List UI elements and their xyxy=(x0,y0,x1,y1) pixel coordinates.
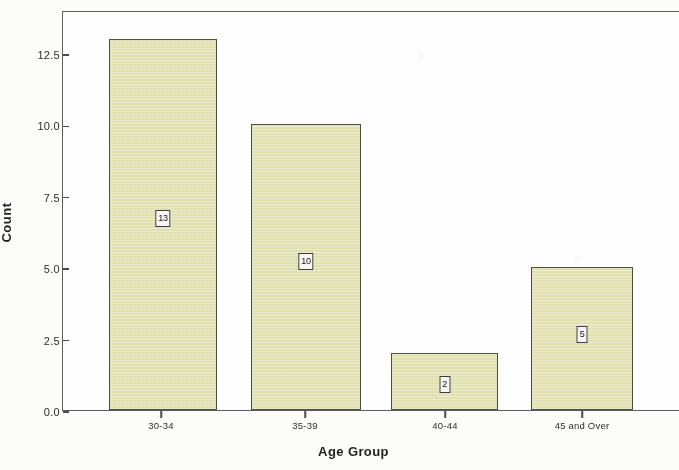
y-axis-tick-label: 0.0 xyxy=(44,406,63,418)
bar-40-44: 2 xyxy=(391,353,498,410)
y-axis-tick-3: 7.5 xyxy=(44,192,63,204)
y-axis-tick-mark xyxy=(63,340,69,342)
bar-value-label: 13 xyxy=(155,210,170,227)
bar-45-and-over: 5 xyxy=(531,267,633,410)
x-axis-title: Age Group xyxy=(0,444,679,459)
x-axis-tick-label-45-and-over: 45 and Over xyxy=(555,420,609,431)
x-axis-tick-label-30-34: 30-34 xyxy=(148,420,173,431)
x-axis-tick-mark xyxy=(304,411,306,418)
y-axis-tick-mark xyxy=(63,268,69,270)
x-axis-title-text: Age Group xyxy=(318,444,389,459)
y-axis-tick-mark xyxy=(63,126,69,128)
y-axis-tick-2: 5.0 xyxy=(44,263,63,275)
y-axis-tick-label: 7.5 xyxy=(44,192,63,204)
y-axis-tick-label: 10.0 xyxy=(37,120,63,132)
x-axis-tick-mark xyxy=(444,411,446,418)
bar-value-label: 10 xyxy=(298,253,313,270)
y-axis-tick-5: 12.5 xyxy=(37,49,63,61)
y-axis-tick-label: 2.5 xyxy=(44,335,63,347)
y-axis-tick-mark xyxy=(63,197,69,199)
y-axis-tick-mark xyxy=(63,54,69,56)
y-axis-tick-label: 5.0 xyxy=(44,263,63,275)
bar-35-39: 10 xyxy=(251,124,361,410)
x-axis-tick-label-35-39: 35-39 xyxy=(292,420,317,431)
y-axis-tick-0: 0.0 xyxy=(44,406,63,418)
bar-chart-figure: 0.0 2.5 5.0 7.5 10.0 12.5 13 xyxy=(0,0,679,470)
y-axis-tick-label: 12.5 xyxy=(37,49,63,61)
x-axis: 30-34 35-39 40-44 45 and Over xyxy=(62,411,679,441)
x-axis-tick-mark xyxy=(160,411,162,418)
y-axis-tick-1: 2.5 xyxy=(44,335,63,347)
x-axis-tick-label-40-44: 40-44 xyxy=(432,420,457,431)
bar-value-label: 5 xyxy=(577,326,588,343)
y-axis-tick-4: 10.0 xyxy=(37,120,63,132)
bar-value-label: 2 xyxy=(439,376,450,393)
bar-30-34: 13 xyxy=(109,39,217,410)
y-axis-title: Count xyxy=(0,202,14,242)
x-axis-tick-mark xyxy=(581,411,583,418)
plot-area: 0.0 2.5 5.0 7.5 10.0 12.5 13 xyxy=(62,11,679,411)
